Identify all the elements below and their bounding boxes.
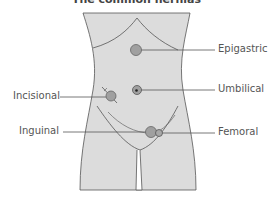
incisional-hernia-marker [106,91,116,101]
label-incisional: Incisional [13,90,60,101]
label-umbilical: Umbilical [218,83,264,94]
femoral-hernia-marker [156,130,163,137]
epigastric-hernia-marker [131,45,142,56]
label-epigastric: Epigastric [218,43,267,54]
label-femoral: Femoral [218,126,258,137]
inguinal-hernia-marker [146,127,157,138]
label-inguinal: Inguinal [19,125,59,136]
